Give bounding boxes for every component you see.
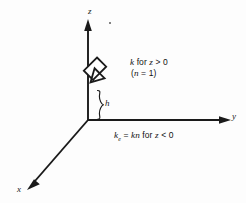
annotation-refractive-index: (n = 1) (131, 68, 156, 78)
speck-artifact (109, 22, 111, 24)
axes-drawing (0, 0, 246, 203)
height-brace (98, 91, 104, 120)
z-axis-arrowhead (84, 19, 92, 31)
annotation-upper-relation: > 0 (153, 57, 168, 67)
coordinate-axis-figure: z y x h k for z > 0 (n = 1) ke = kn for … (0, 0, 246, 203)
z-axis-label: z (88, 6, 92, 16)
annotation-bottom-expression: kn (131, 130, 140, 140)
annotation-lower-medium: ke = kn for z < 0 (114, 130, 174, 142)
annotation-paren-close: ) (153, 68, 156, 78)
annotation-bottom-text-mid: for (140, 130, 155, 140)
y-axis-arrowhead (219, 116, 231, 124)
annotation-n-relation: = 1 (139, 68, 154, 78)
x-axis-line (35, 120, 88, 181)
annotation-bottom-relation: < 0 (159, 130, 174, 140)
x-axis-label: x (17, 184, 21, 194)
x-axis-arrowhead (27, 179, 40, 190)
height-brace-label: h (105, 98, 110, 108)
annotation-upper-text-mid: for (134, 57, 149, 67)
annotation-upper-medium: k for z > 0 (130, 57, 168, 67)
y-axis-label: y (232, 111, 236, 121)
annotation-bottom-equals: = (121, 130, 131, 140)
